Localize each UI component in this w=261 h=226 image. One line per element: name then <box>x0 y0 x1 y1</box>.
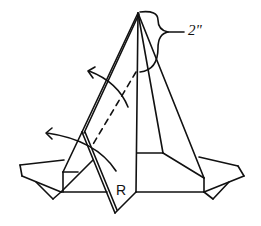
fold-arrow-icon <box>88 67 128 107</box>
measurement-label: 2" <box>188 22 202 39</box>
origami-diagram <box>0 0 261 226</box>
measurement-brace <box>140 12 168 72</box>
left-wing <box>20 160 64 199</box>
valley-fold-line <box>92 72 136 146</box>
flap-label: R <box>116 182 126 198</box>
pyramid-body <box>61 13 204 213</box>
right-wing <box>199 157 244 199</box>
